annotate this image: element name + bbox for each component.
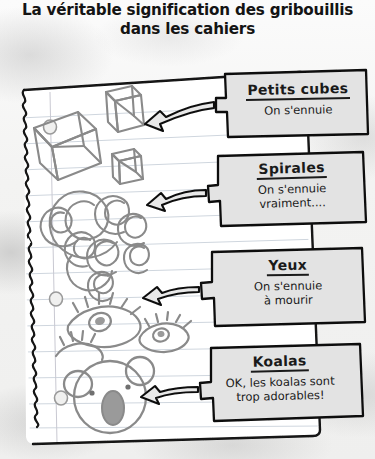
punch-hole	[55, 391, 68, 405]
callout-box[interactable]	[216, 70, 368, 137]
doodle-artwork	[0, 0, 375, 459]
comic-panel: La véritable signification des gribouill…	[0, 0, 375, 459]
punch-hole	[50, 292, 63, 306]
callout-box[interactable]	[201, 248, 365, 326]
callout-box[interactable]	[208, 152, 366, 226]
callout-box[interactable]	[200, 344, 363, 421]
